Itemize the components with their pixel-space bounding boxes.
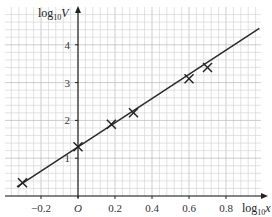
x-tick-label: 0.6 — [182, 202, 196, 214]
x-marker-icon — [107, 120, 116, 129]
x-tick-label: O — [74, 202, 82, 214]
log-log-scatter-chart: −0.2O0.20.40.60.81234 log10V log10x — [0, 0, 272, 217]
y-axis-label: log10V — [38, 6, 70, 22]
x-tick-label: 0.4 — [145, 202, 159, 214]
x-axis-label: log10x — [242, 201, 271, 217]
x-tick-label: −0.2 — [31, 202, 51, 214]
y-tick-label: 2 — [65, 114, 71, 126]
grid — [5, 7, 261, 196]
y-tick-label: 3 — [65, 77, 71, 89]
x-tick-label: 0.2 — [108, 202, 122, 214]
y-tick-label: 1 — [65, 152, 71, 164]
axes — [5, 6, 268, 199]
x-tick-label: 0.8 — [219, 202, 233, 214]
x-marker-icon — [18, 178, 27, 187]
y-tick-label: 4 — [65, 39, 71, 51]
